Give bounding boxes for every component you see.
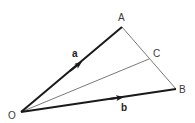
point-label-a: A [118, 12, 125, 23]
point-label-b: B [179, 84, 186, 95]
segment-ab [122, 27, 176, 89]
vector-label-a: a [72, 48, 78, 59]
vector-label-b: b [121, 102, 127, 113]
point-label-c: C [153, 48, 160, 59]
segment-oc [21, 59, 149, 112]
vector-a-arrow-icon [70, 64, 79, 71]
point-label-o: O [8, 110, 16, 121]
vector-diagram: A B C O a b [0, 0, 195, 123]
